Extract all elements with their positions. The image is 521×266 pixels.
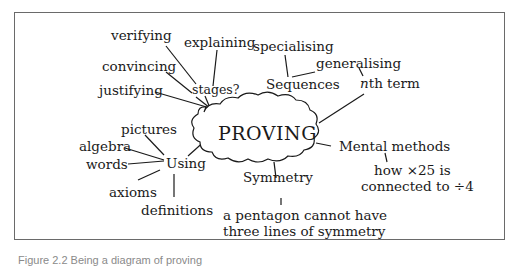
node-stages: stages? (192, 82, 239, 97)
node-symmetry: Symmetry (243, 170, 313, 185)
figure-caption: Figure 2.2 Being a diagram of proving (18, 254, 202, 266)
node-mental-methods: Mental methods (339, 139, 450, 154)
node-convincing: convincing (102, 59, 176, 74)
node-symmetry-detail-1: a pentagon cannot have (223, 208, 387, 223)
node-justifying: justifying (99, 83, 163, 98)
node-algebra: algebra (79, 139, 131, 154)
nth-italic-n: n (360, 75, 369, 91)
node-verifying: verifying (111, 28, 172, 43)
node-nth-term: nth term (360, 76, 420, 91)
node-pictures: pictures (121, 122, 177, 137)
node-sequences: Sequences (266, 77, 340, 92)
node-words: words (86, 157, 128, 172)
node-mental-detail-1: how ×25 is (374, 163, 451, 178)
nth-rest: th term (369, 75, 420, 91)
node-explaining: explaining (184, 35, 255, 50)
central-topic-proving: PROVING (218, 122, 317, 144)
node-mental-detail-2: connected to ÷4 (361, 179, 474, 194)
node-symmetry-detail-2: three lines of symmetry (223, 224, 385, 239)
node-generalising: generalising (316, 56, 401, 71)
node-specialising: specialising (253, 39, 334, 54)
node-using: Using (166, 156, 206, 171)
node-axioms: axioms (109, 185, 157, 200)
node-definitions: definitions (141, 203, 213, 218)
